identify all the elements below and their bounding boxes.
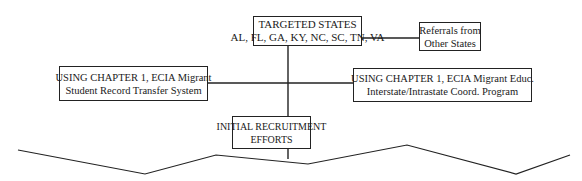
- node-initial-recruitment-line2: EFFORTS: [250, 133, 292, 146]
- node-coord-program-line1: USING CHAPTER 1, ECIA Migrant Educ.: [351, 72, 534, 85]
- node-initial-recruitment-line1: INITIAL RECRUITMENT: [217, 120, 327, 133]
- node-referrals-line2: Other States: [424, 37, 476, 50]
- zigzag-break-line: [18, 145, 570, 174]
- node-msrts: USING CHAPTER 1, ECIA Migrant Student Re…: [59, 66, 208, 101]
- node-coord-program-line2: Interstate/Intrastate Coord. Program: [367, 85, 518, 98]
- node-targeted-states: TARGETED STATES AL, FL, GA, KY, NC, SC, …: [253, 16, 362, 46]
- node-coord-program: USING CHAPTER 1, ECIA Migrant Educ. Inte…: [353, 68, 532, 102]
- node-msrts-line1: USING CHAPTER 1, ECIA Migrant: [55, 71, 211, 84]
- node-targeted-states-line2: AL, FL, GA, KY, NC, SC, TN, VA: [231, 31, 385, 44]
- node-referrals: Referrals from Other States: [419, 22, 481, 51]
- node-msrts-line2: Student Record Transfer System: [65, 84, 201, 97]
- node-initial-recruitment: INITIAL RECRUITMENT EFFORTS: [232, 116, 311, 149]
- node-targeted-states-line1: TARGETED STATES: [258, 18, 356, 31]
- node-referrals-line1: Referrals from: [419, 24, 481, 37]
